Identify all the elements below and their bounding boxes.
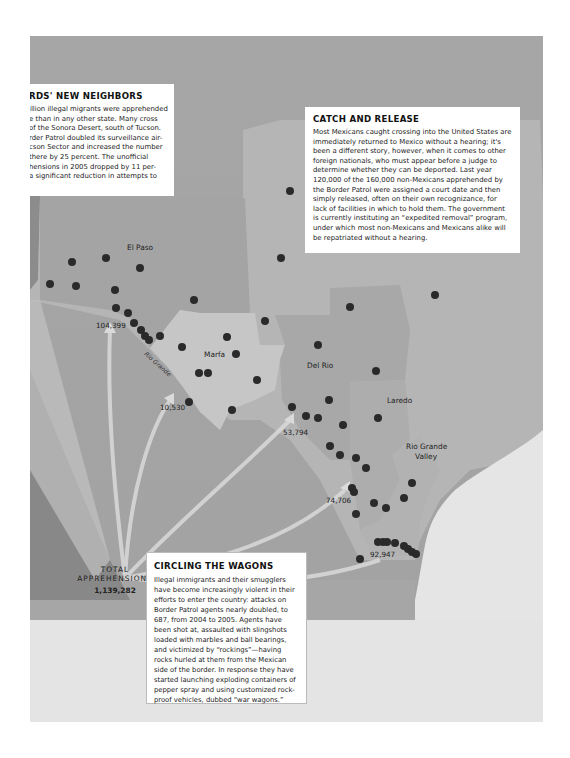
station-dot	[286, 187, 294, 195]
station-dot	[156, 332, 164, 340]
sector-label-rgv-1: Rio Grande	[406, 442, 447, 451]
station-dot	[370, 499, 378, 507]
new-neighbors-line: illion illegal migrants were apprehended	[30, 105, 168, 115]
station-dot	[136, 264, 144, 272]
station-dot	[382, 504, 390, 512]
station-dot	[391, 539, 399, 547]
station-dot	[223, 333, 231, 341]
station-dot	[72, 282, 80, 290]
station-dot	[412, 550, 420, 558]
station-dot	[195, 369, 203, 377]
sector-label-laredo: Laredo	[387, 396, 412, 405]
count-laredo: 74,706	[326, 496, 351, 505]
catch-release-title: CATCH AND RELEASE	[313, 114, 512, 124]
new-neighbors-line: e than in any other state. Many cross	[30, 115, 168, 125]
circling-wagons-body: Illegal immigrants and their smugglers h…	[154, 575, 300, 705]
sidebar-circling-the-wagons: CIRCLING THE WAGONS Illegal immigrants a…	[146, 552, 307, 704]
station-dot	[302, 412, 310, 420]
new-neighbors-line: there by 25 percent. The unofficial	[30, 153, 168, 163]
station-dot	[204, 369, 212, 377]
station-dot	[431, 291, 439, 299]
count-rgv: 92,947	[370, 550, 395, 559]
sidebar-catch-and-release: CATCH AND RELEASE Most Mexicans caught c…	[305, 107, 520, 253]
station-dot	[408, 479, 416, 487]
station-dot	[111, 286, 119, 294]
station-dot	[102, 254, 110, 262]
station-dot	[352, 510, 360, 518]
new-neighbors-line: cson Sector and increased the number	[30, 143, 168, 153]
station-dot	[190, 296, 198, 304]
station-dot	[314, 414, 322, 422]
station-dot	[372, 367, 380, 375]
station-dot	[277, 254, 285, 262]
station-dot	[288, 403, 296, 411]
station-dot	[383, 538, 391, 546]
station-dot	[228, 406, 236, 414]
station-dot	[336, 451, 344, 459]
station-dot	[325, 396, 333, 404]
station-dot	[178, 343, 186, 351]
count-del-rio: 53,794	[283, 428, 308, 437]
new-neighbors-line: rder Patrol doubled its surveillance air…	[30, 134, 168, 144]
station-dot	[145, 336, 153, 344]
station-dot	[261, 317, 269, 325]
station-dot	[339, 421, 347, 429]
station-dot	[112, 304, 120, 312]
station-dot	[124, 309, 132, 317]
sector-label-del-rio: Del Rio	[307, 361, 333, 370]
circling-wagons-title: CIRCLING THE WAGONS	[154, 561, 300, 571]
new-neighbors-title: RDS' NEW NEIGHBORS	[30, 91, 168, 101]
sector-label-el-paso: El Paso	[127, 243, 153, 252]
sidebar-new-neighbors: RDS' NEW NEIGHBORS illion illegal migran…	[30, 84, 174, 196]
station-dot	[356, 555, 364, 563]
count-marfa: 10,530	[160, 403, 185, 412]
station-dot	[253, 376, 261, 384]
station-dot	[346, 303, 354, 311]
new-neighbors-line: hensions in 2005 dropped by 11 per-	[30, 163, 168, 173]
station-dot	[68, 258, 76, 266]
station-dot	[314, 341, 322, 349]
station-dot	[350, 488, 358, 496]
station-dot	[185, 398, 193, 406]
sector-label-marfa: Marfa	[204, 350, 225, 359]
station-dot	[374, 414, 382, 422]
station-dot	[362, 464, 370, 472]
station-dot	[352, 454, 360, 462]
count-el-paso: 104,399	[96, 321, 126, 330]
station-dot	[400, 494, 408, 502]
new-neighbors-line: a significant reduction in attempts to	[30, 172, 168, 182]
station-dot	[232, 350, 240, 358]
station-dot	[130, 319, 138, 327]
station-dot	[374, 538, 382, 546]
sector-label-rgv-2: Valley	[415, 452, 437, 461]
station-dot	[326, 442, 334, 450]
station-dot	[46, 280, 54, 288]
catch-release-body: Most Mexicans caught crossing into the U…	[313, 128, 512, 243]
new-neighbors-line: of the Sonora Desert, south of Tucson.	[30, 124, 168, 134]
